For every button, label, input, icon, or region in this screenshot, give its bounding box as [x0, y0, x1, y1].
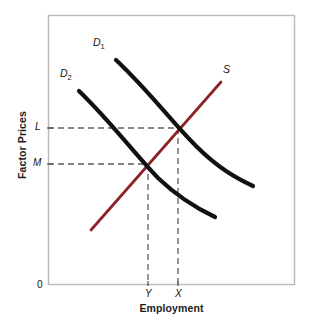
curve-label-D1-text: D	[93, 36, 101, 48]
curve-label-D2-text: D	[60, 67, 68, 79]
x-tick-label-Y: Y	[145, 288, 152, 299]
curve-label-D1: D1	[93, 36, 105, 51]
y-tick-label-L: L	[35, 121, 41, 132]
curve-label-D2-sub: 2	[68, 73, 72, 82]
curve-label-D2: D2	[60, 67, 72, 82]
x-tick-label-X: X	[175, 288, 182, 299]
origin-label: 0	[37, 279, 43, 290]
curve-label-D1-sub: 1	[101, 42, 105, 51]
chart-canvas	[0, 0, 317, 328]
plot-frame	[49, 16, 295, 285]
curve-label-S: S	[223, 63, 230, 75]
x-axis-title: Employment	[48, 302, 295, 314]
supply-demand-chart: Factor Prices Employment 0 L M Y X D1 D2…	[0, 0, 317, 328]
curve-label-S-text: S	[223, 63, 230, 75]
y-tick-label-M: M	[33, 157, 41, 168]
y-axis-title: Factor Prices	[16, 85, 28, 205]
